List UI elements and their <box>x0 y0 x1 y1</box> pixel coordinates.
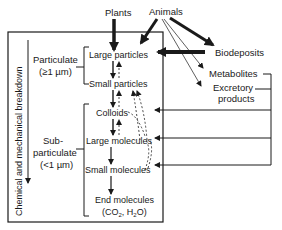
subparticulate-label-line1: Sub- <box>43 135 63 146</box>
subparticulate-label-line2: particulate <box>33 147 77 158</box>
breakdown-box <box>8 32 163 222</box>
particulate-label: Particulate <box>33 54 78 65</box>
stage-end-formula: (CO2, H2O) <box>102 207 147 218</box>
stage-end-molecules: End molecules <box>95 195 155 205</box>
excretory-label-line1: Excretory <box>213 82 253 93</box>
animals-to-particles-arrow-icon <box>141 19 157 43</box>
detritus-breakdown-diagram: Chemical and mechanical breakdown Plants… <box>0 0 282 230</box>
stage-colloids: Colloids <box>96 108 129 118</box>
stage-large-molecules: Large molecules <box>86 136 153 146</box>
excretory-label-line2: products <box>218 93 255 104</box>
animals-to-biodeposits-arrow-icon <box>170 18 213 45</box>
particulate-size-label: (≥1 µm) <box>39 66 72 77</box>
metabolites-label: Metabolites <box>209 68 258 79</box>
subparticulate-size-label: (<1 µm) <box>40 159 73 170</box>
stage-large-particles: Large particles <box>89 50 149 60</box>
axis-label: Chemical and mechanical breakdown <box>14 66 24 216</box>
breakdown-axis: Chemical and mechanical breakdown <box>14 40 28 216</box>
biodeposits-label: Biodeposits <box>215 47 264 58</box>
subparticulate-bracket <box>84 104 89 216</box>
stage-small-molecules: Small molecules <box>85 165 151 175</box>
stage-small-particles: Small particles <box>89 79 148 89</box>
animals-label: Animals <box>149 6 183 17</box>
plants-label: Plants <box>105 7 132 18</box>
